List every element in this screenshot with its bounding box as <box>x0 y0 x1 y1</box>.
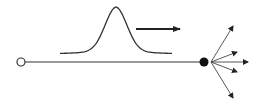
scatter-point <box>200 58 209 67</box>
scattering-diagram <box>0 0 260 105</box>
scattered-arrows-icon <box>211 26 248 98</box>
wave-packet <box>60 7 172 53</box>
source-circle <box>17 58 25 66</box>
